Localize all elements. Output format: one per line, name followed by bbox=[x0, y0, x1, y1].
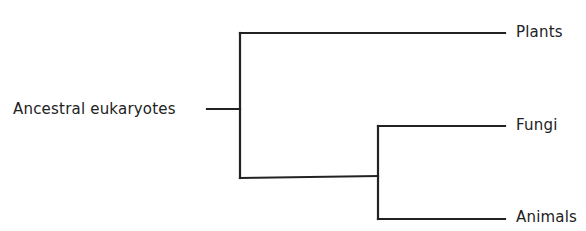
leaf-label-fungi: Fungi bbox=[516, 116, 558, 134]
root-label: Ancestral eukaryotes bbox=[13, 100, 176, 118]
leaf-label-animals: Animals bbox=[516, 208, 577, 226]
node-2-branch bbox=[240, 176, 378, 178]
leaf-label-plants: Plants bbox=[516, 23, 563, 41]
